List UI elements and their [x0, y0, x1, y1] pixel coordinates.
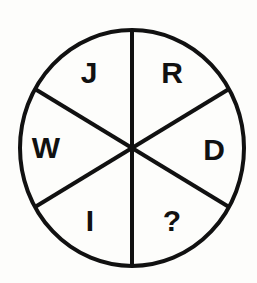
- sector-label-top-left: J: [69, 58, 109, 88]
- sector-label-bottom-left: I: [70, 206, 110, 236]
- sector-label-top-right: R: [152, 58, 192, 88]
- sector-label-bottom-right: ?: [152, 206, 192, 236]
- letter-wheel-puzzle: J R W D I ?: [0, 0, 257, 283]
- sector-label-right: D: [194, 135, 234, 165]
- sector-label-left: W: [26, 133, 66, 163]
